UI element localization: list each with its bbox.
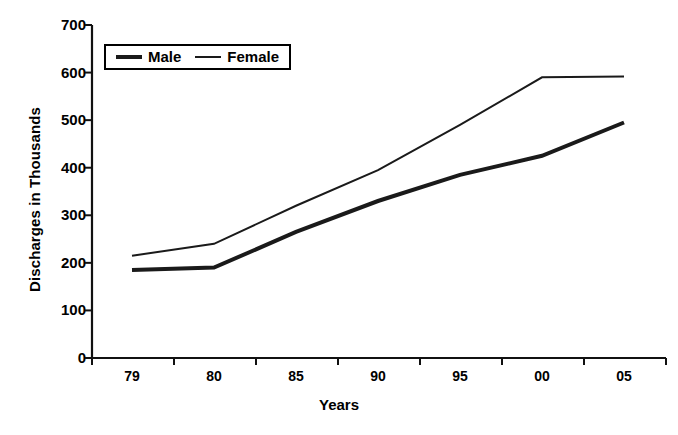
series-line-female — [132, 76, 624, 255]
chart-figure: Discharges in Thousands 0100200300400500… — [0, 0, 678, 435]
chart-series-group — [132, 76, 624, 270]
series-line-male — [132, 123, 624, 270]
chart-plot-area — [0, 0, 678, 435]
